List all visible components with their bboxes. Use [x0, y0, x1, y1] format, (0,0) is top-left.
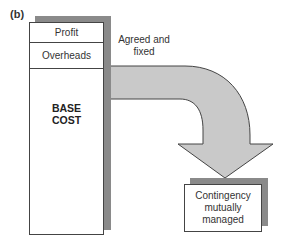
profit-label: Profit: [55, 27, 78, 38]
base-cost-segment: BASE COST: [30, 68, 103, 234]
base-cost-label: BASE COST: [30, 102, 103, 126]
cost-stack: Profit Overheads BASE COST: [29, 22, 104, 235]
contingency-line3: managed: [202, 214, 244, 225]
arrow-label-line1: Agreed and: [118, 34, 170, 45]
contingency-label: Contingency mutually managed: [195, 190, 251, 226]
base-cost-line2: COST: [52, 114, 81, 126]
overheads-segment: Overheads: [30, 42, 103, 69]
arrow-label: Agreed and fixed: [114, 34, 174, 58]
profit-segment: Profit: [30, 23, 103, 43]
arrow-label-line2: fixed: [133, 46, 154, 57]
contingency-line1: Contingency: [195, 190, 251, 201]
base-cost-line1: BASE: [52, 102, 81, 114]
contingency-box: Contingency mutually managed: [184, 184, 262, 232]
overheads-label: Overheads: [42, 50, 91, 61]
contingency-line2: mutually: [204, 202, 241, 213]
